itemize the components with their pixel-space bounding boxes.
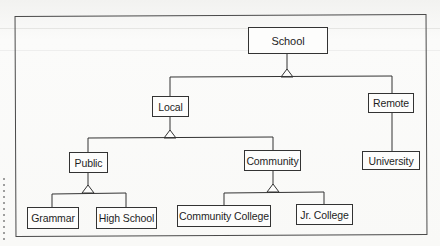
node-university: University bbox=[362, 151, 420, 170]
node-local: Local bbox=[152, 96, 189, 117]
node-jr-college: Jr. College bbox=[296, 204, 353, 225]
node-high-school: High School bbox=[96, 207, 157, 229]
node-grammar: Grammar bbox=[27, 207, 79, 229]
node-community-college: Community College bbox=[177, 205, 271, 227]
node-public: Public bbox=[69, 152, 108, 173]
node-community: Community bbox=[244, 150, 301, 171]
node-school: School bbox=[248, 27, 328, 54]
node-remote: Remote bbox=[368, 93, 414, 113]
diagram-canvas: School Local Remote Public Community Uni… bbox=[0, 0, 440, 246]
